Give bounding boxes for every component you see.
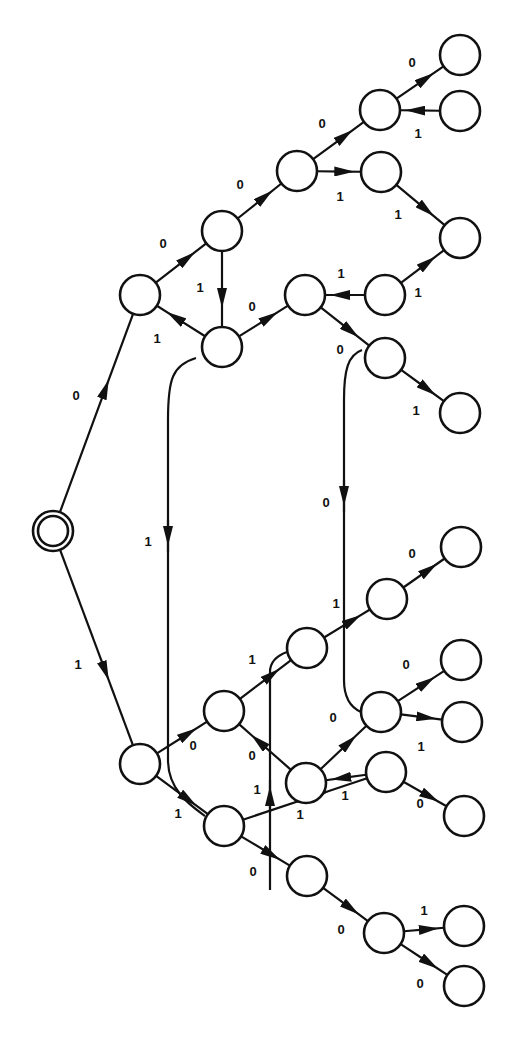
- state-node: [277, 151, 317, 191]
- edge-c-to-a: [157, 306, 205, 337]
- edge-label: 1: [337, 266, 344, 281]
- state-node: [202, 327, 242, 367]
- edge-label: 0: [248, 299, 255, 314]
- edge-g-to-e: [400, 110, 440, 111]
- edge-h-to-i: [396, 185, 444, 225]
- state-node: [444, 796, 484, 836]
- state-node: [120, 275, 160, 315]
- edge-label: 0: [408, 546, 415, 561]
- edge-s2-to-t: [398, 671, 444, 701]
- edge-label: 1: [74, 657, 81, 672]
- state-node: [360, 90, 400, 130]
- edge-s2-to-u: [401, 714, 442, 719]
- edge-curve-l-to-s2: [344, 350, 362, 712]
- state-node: [365, 275, 405, 315]
- state-node: [364, 913, 404, 953]
- edge-label: 1: [394, 207, 401, 222]
- edge-label: 1: [341, 788, 348, 803]
- state-node: [285, 275, 325, 315]
- edge-k-to-i: [401, 250, 444, 283]
- edge-label: 0: [249, 864, 256, 879]
- state-node: [367, 579, 407, 619]
- edge-n-to-o: [157, 722, 207, 754]
- edge-b-to-d: [238, 183, 282, 218]
- state-node: [444, 966, 484, 1006]
- edge-label: 0: [416, 976, 423, 991]
- edge-s-to-a: [60, 314, 133, 512]
- state-node: [120, 744, 160, 784]
- edge-label: 0: [159, 236, 166, 251]
- long-transition-curves: [168, 350, 362, 890]
- edge-label: 1: [414, 285, 421, 300]
- state-node: [361, 692, 401, 732]
- edge-label: 1: [332, 596, 339, 611]
- edge-aa-to-ac: [401, 944, 448, 975]
- edge-n-to-y: [156, 776, 208, 814]
- edge-label: 1: [153, 331, 160, 346]
- edge-s-to-n: [60, 550, 133, 746]
- state-node: [440, 35, 480, 75]
- edge-label: 1: [248, 652, 255, 667]
- edge-w-to-v: [326, 775, 366, 781]
- edge-label: 1: [144, 534, 151, 549]
- edge-label: 1: [412, 403, 419, 418]
- edge-label: 1: [253, 782, 260, 797]
- edge-j-to-l: [321, 307, 370, 345]
- edge-label: 0: [189, 738, 196, 753]
- state-node: [202, 211, 242, 251]
- edge-label: 0: [318, 116, 325, 131]
- edge-v-to-o: [239, 724, 291, 770]
- state-node: [204, 691, 244, 731]
- state-node: [440, 91, 480, 131]
- state-node: [440, 393, 480, 433]
- edge-label: 1: [420, 903, 427, 918]
- edge-label: 1: [336, 189, 343, 204]
- edge-p-to-q: [324, 609, 370, 637]
- state-nodes: [33, 35, 484, 1006]
- edge-d-to-h: [317, 171, 361, 172]
- state-node: [204, 806, 244, 846]
- state-node: [440, 218, 480, 258]
- state-node: [287, 856, 327, 896]
- edge-c-to-j: [239, 306, 288, 337]
- edge-label: 1: [417, 739, 424, 754]
- state-node: [366, 752, 406, 792]
- state-node: [365, 338, 405, 378]
- edge-l-to-m: [401, 370, 444, 401]
- state-node: [441, 640, 481, 680]
- state-node: [286, 763, 326, 803]
- state-node: [444, 906, 484, 946]
- edge-label: 0: [236, 177, 243, 192]
- transition-edges: [60, 66, 447, 975]
- state-node: [441, 527, 481, 567]
- edge-label: 0: [248, 748, 255, 763]
- edge-q-to-r: [403, 558, 444, 587]
- edge-e-to-f: [396, 66, 443, 98]
- state-node: [287, 628, 327, 668]
- edge-label: 0: [416, 796, 423, 811]
- edge-label: 1: [174, 806, 181, 821]
- edge-labels: 01010101011101010101101000110110010: [72, 55, 427, 991]
- edge-label: 1: [196, 280, 203, 295]
- edge-label: 0: [402, 657, 409, 672]
- edge-label: 0: [72, 388, 79, 403]
- state-diagram: 01010101011101010101101000110110010: [0, 0, 516, 1040]
- edge-label: 0: [408, 55, 415, 70]
- edge-y-to-z: [241, 836, 290, 865]
- edge-label: 0: [329, 710, 336, 725]
- edge-curve-c-to-y: [168, 358, 205, 816]
- edge-label: 1: [414, 126, 421, 141]
- edge-aa-to-ab: [404, 928, 444, 932]
- edge-label: 0: [322, 495, 329, 510]
- state-node: [361, 152, 401, 192]
- edge-label: 1: [296, 807, 303, 822]
- edge-z-to-aa: [323, 888, 368, 921]
- start-state-inner-ring: [38, 516, 68, 546]
- edge-w-to-x: [403, 782, 446, 806]
- edge-label: 0: [337, 922, 344, 937]
- edge-v-to-s2: [321, 726, 367, 770]
- state-node: [442, 702, 482, 742]
- edge-label: 0: [336, 342, 343, 357]
